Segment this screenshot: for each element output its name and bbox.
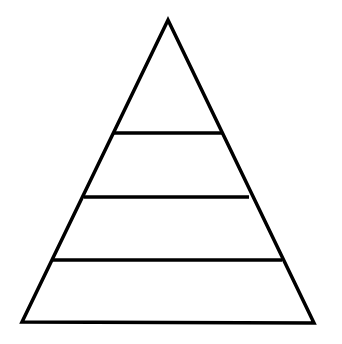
pyramid-svg (0, 0, 342, 344)
pyramid-diagram (0, 0, 342, 344)
pyramid-outline (22, 20, 314, 323)
